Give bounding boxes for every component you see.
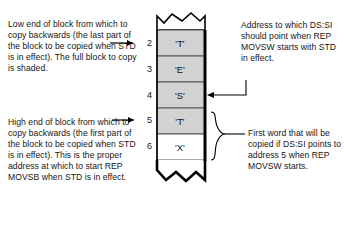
memory-cell-value-3: 'E' xyxy=(157,65,203,74)
ds-si-arrow-head xyxy=(207,92,214,98)
high-end-arrow-head xyxy=(128,117,134,123)
low-end-arrow-head xyxy=(127,40,133,46)
torn-top-edge xyxy=(157,13,205,30)
memory-cell-value-4: 'S' xyxy=(157,91,203,100)
torn-bottom-edge xyxy=(157,160,205,181)
first-word-brace xyxy=(211,112,224,160)
ds-si-elbow-line xyxy=(213,80,246,95)
memory-cell-value-6: 'X' xyxy=(157,143,203,152)
memory-cell-value-5: 'T' xyxy=(157,117,203,126)
memory-cell-value-2: 'T' xyxy=(157,39,203,48)
diagram-canvas: Low end of block from which to copy back… xyxy=(0,0,344,238)
